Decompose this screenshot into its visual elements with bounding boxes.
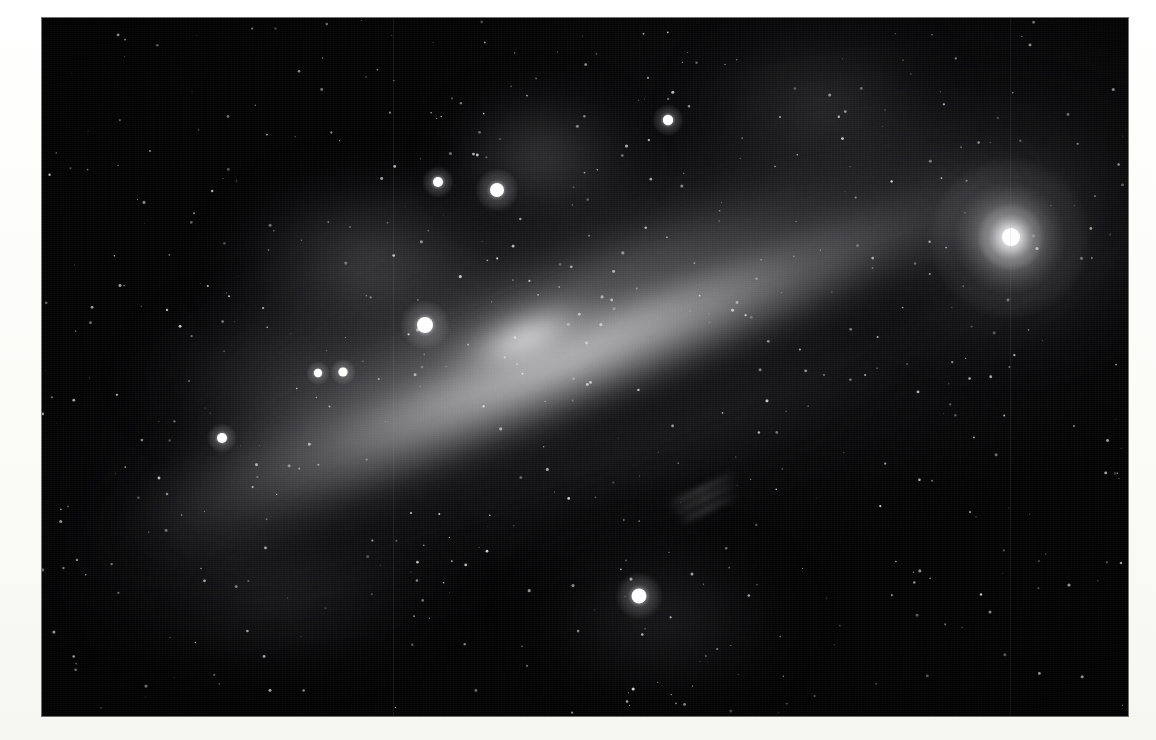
- plate-seam-2: [1010, 18, 1011, 716]
- star-g: [652, 104, 684, 136]
- star-d: [306, 361, 330, 385]
- page-root: [0, 0, 1156, 740]
- star-i: [977, 203, 1045, 271]
- star-h: [615, 572, 663, 620]
- field-stars: [42, 20, 1124, 714]
- star-c: [400, 300, 450, 350]
- photographic-plate: [42, 18, 1128, 716]
- star-e: [330, 359, 356, 385]
- star-b: [475, 168, 519, 212]
- star-f: [207, 423, 237, 453]
- star-a: [422, 166, 454, 198]
- plate-seam-1: [393, 18, 394, 716]
- star-field: [42, 18, 1128, 716]
